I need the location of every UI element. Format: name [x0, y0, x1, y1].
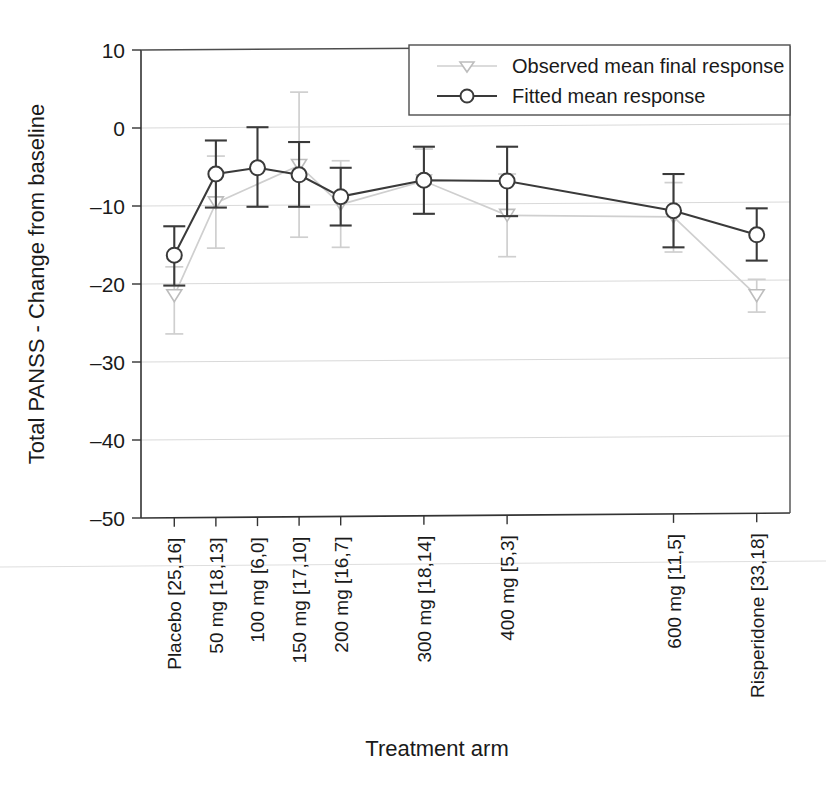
y-axis-title: Total PANSS - Change from baseline	[24, 104, 49, 464]
datapoint-circle-1	[208, 167, 223, 182]
datapoint-circle-8	[749, 227, 764, 242]
datapoint-circle-4	[333, 189, 348, 204]
datapoint-circle-3	[292, 167, 307, 182]
x-tick-label-5: 300 mg [18,14]	[414, 536, 435, 663]
x-tick-label-8: Risperidone [33,18]	[747, 533, 768, 698]
gridline--30	[141, 358, 790, 362]
gridline--40	[141, 436, 790, 440]
y-tick-label--40: –40	[90, 429, 125, 452]
y-tick-label--20: –20	[90, 273, 125, 296]
datapoint-circle-6	[500, 174, 515, 189]
datapoint-circle-5	[416, 173, 431, 188]
chart-legend: Observed mean final response Fitted mean…	[409, 45, 790, 115]
x-tick-label-0: Placebo [25,16]	[164, 538, 185, 670]
y-tick-label--50: –50	[90, 507, 125, 530]
y-tick-label--30: –30	[90, 351, 125, 374]
gridline-0	[141, 124, 790, 128]
y-tick-label-10: 10	[102, 39, 125, 62]
datapoint-circle-2	[250, 160, 265, 175]
series-fitted-mean-response	[163, 127, 767, 285]
gridline--10	[141, 202, 790, 206]
x-axis-tick-labels: Placebo [25,16]50 mg [18,13]100 mg [6,0]…	[164, 533, 767, 698]
datapoint-circle-0	[167, 248, 182, 263]
y-tick-label--10: –10	[90, 195, 125, 218]
legend-label-observed: Observed mean final response	[512, 55, 784, 77]
x-tick-label-3: 150 mg [17,10]	[289, 537, 310, 664]
circle-icon	[461, 90, 474, 103]
chart-figure: 100–10–20–30–40–50 Placebo [25,16]50 mg …	[0, 0, 826, 785]
x-tick-label-2: 100 mg [6,0]	[247, 537, 268, 643]
datapoint-triangle-0	[167, 290, 182, 302]
datapoint-triangle-8	[749, 290, 764, 302]
x-tick-label-7: 600 mg [11,5]	[664, 534, 685, 649]
x-tick-label-4: 200 mg [16,7]	[331, 536, 352, 652]
x-tick-label-6: 400 mg [5,3]	[497, 535, 518, 641]
panss-dose-response-chart: 100–10–20–30–40–50 Placebo [25,16]50 mg …	[0, 0, 826, 785]
series-line-observed	[174, 165, 756, 295]
y-axis-ticks: 100–10–20–30–40–50	[90, 39, 141, 530]
gridline--20	[141, 280, 790, 284]
y-tick-label-0: 0	[113, 117, 125, 140]
x-tick-label-1: 50 mg [18,13]	[206, 537, 227, 653]
x-axis-title: Treatment arm	[365, 736, 508, 761]
x-axis-line	[141, 513, 790, 518]
datapoint-circle-7	[666, 203, 681, 218]
legend-label-fitted: Fitted mean response	[512, 85, 705, 107]
